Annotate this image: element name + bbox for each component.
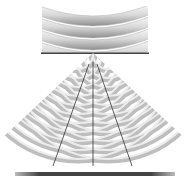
screen: [15, 172, 175, 176]
double-slit-diagram: [0, 0, 187, 178]
interference-illustration: [0, 0, 187, 178]
barrier: [41, 53, 149, 55]
